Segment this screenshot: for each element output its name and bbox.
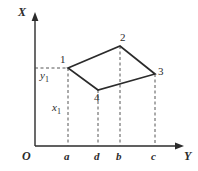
x1-subscript: 1 bbox=[57, 107, 61, 116]
y-axis-label: Y bbox=[184, 150, 191, 162]
quadrilateral-shape bbox=[68, 46, 155, 90]
tick-label-b: b bbox=[116, 151, 122, 162]
x-axis-arrow-icon bbox=[32, 12, 39, 21]
diagram-svg bbox=[0, 0, 198, 171]
y1-value-label: y1 bbox=[40, 70, 49, 84]
origin-label: O bbox=[22, 150, 31, 162]
coordinate-diagram: X Y O a d b c y1 x1 1 2 3 4 bbox=[0, 0, 198, 171]
y-axis bbox=[35, 143, 184, 150]
vertex-label-2: 2 bbox=[120, 32, 126, 43]
vertex-label-4: 4 bbox=[94, 92, 100, 103]
y-axis-arrow-icon bbox=[175, 143, 184, 150]
tick-label-a: a bbox=[64, 151, 70, 162]
x1-value-label: x1 bbox=[52, 102, 61, 116]
tick-label-d: d bbox=[94, 151, 100, 162]
vertex-label-1: 1 bbox=[60, 54, 66, 65]
x-axis bbox=[32, 12, 39, 146]
y1-subscript: 1 bbox=[45, 75, 49, 84]
x-axis-label: X bbox=[18, 6, 26, 18]
tick-label-c: c bbox=[151, 151, 156, 162]
vertex-label-3: 3 bbox=[158, 66, 164, 77]
